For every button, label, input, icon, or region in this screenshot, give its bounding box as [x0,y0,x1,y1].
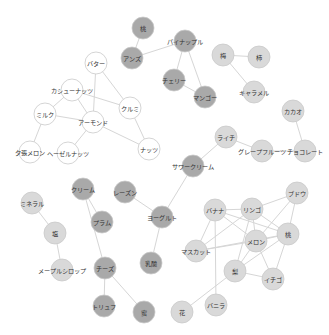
node-label: カカオ [284,108,302,115]
node-label: アーモンド [78,119,108,126]
node-cherry[interactable]: チェリー [162,69,186,91]
node-cheese[interactable]: チーズ [94,257,116,279]
node-label: メープルシロップ [38,267,87,274]
node-grapefruit[interactable]: グレープフルーツ [238,140,286,162]
node-label: ミルク [36,111,54,118]
node-label: 塩 [52,230,58,237]
node-label: ナッツ [140,146,158,153]
node-label: クリーム [71,186,95,193]
node-label: バター [87,60,105,67]
node-label: チョコレート [287,148,323,156]
edge-banana-vanilla [215,210,216,305]
node-raisin[interactable]: レーズン [113,181,137,203]
node-ichigo[interactable]: イチゴ [262,268,284,290]
node-label: 梨 [232,268,238,276]
node-label: バナナ [206,207,224,214]
node-almond[interactable]: アーモンド [78,111,108,133]
node-mineral[interactable]: ミネラル [20,192,44,214]
node-banana[interactable]: バナナ [204,199,226,221]
node-ume[interactable]: 梅 [212,44,234,66]
node-caramel[interactable]: キャラメル [239,81,269,103]
node-label: チェリー [162,77,186,84]
node-label: クルミ [121,105,139,112]
node-melon[interactable]: メロン [245,230,267,252]
node-label: パイナップル [167,38,203,45]
node-cacao[interactable]: カカオ [282,100,304,122]
node-truffle[interactable]: トリュフ [92,295,116,317]
network-graph: 桃アンズパイナップルチェリーマンゴー梅柿キャラメルカカオライチグレープフルーツチ… [0,0,329,335]
node-yogurt[interactable]: ヨーグルト [147,206,177,228]
node-sourcream[interactable]: サワークリーム [172,155,214,177]
node-label: 乳酸 [145,260,157,268]
node-butter[interactable]: バター [85,52,107,74]
node-label: グレープフルーツ [238,148,286,156]
node-maple[interactable]: メープルシロップ [38,259,87,281]
node-label: レーズン [113,189,137,196]
node-label: 柿 [256,54,262,62]
node-shio[interactable]: 塩 [44,222,66,244]
node-nyusan[interactable]: 乳酸 [140,252,162,274]
node-label: アンズ [123,55,141,62]
node-label: 桃 [140,25,146,33]
node-label: マンゴー [193,94,217,101]
node-label: ヘーゼルナッツ [47,150,89,157]
node-label: ミネラル [20,200,44,207]
node-label: 蜜 [141,309,147,317]
node-lychee[interactable]: ライチ [215,126,237,148]
node-hazelnut[interactable]: ヘーゼルナッツ [47,142,89,164]
node-nashi[interactable]: 梨 [224,260,246,282]
node-label: サワークリーム [172,163,214,170]
node-budou[interactable]: ブドウ [286,182,308,204]
node-label: 梅 [220,52,226,60]
node-cashew[interactable]: カシューナッツ [51,79,93,101]
node-chocolate[interactable]: チョコレート [287,140,323,162]
node-label: リンゴ [243,206,261,213]
node-vanilla[interactable]: バニラ [205,294,227,316]
node-layer: 桃アンズパイナップルチェリーマンゴー梅柿キャラメルカカオライチグレープフルーツチ… [15,17,323,323]
node-kaki[interactable]: 柿 [248,46,270,68]
node-label: マスカット [181,248,211,255]
node-anzu[interactable]: アンズ [121,47,143,69]
node-mango[interactable]: マンゴー [193,86,217,108]
node-label: トリュフ [92,303,116,310]
node-cream[interactable]: クリーム [71,178,95,200]
node-label: 桃 [285,231,291,239]
node-momo[interactable]: 桃 [277,223,299,245]
node-yubari[interactable]: 夕張メロン [15,141,45,163]
node-label: メロン [247,238,265,245]
node-label: ブドウ [288,190,306,197]
node-mitsu[interactable]: 蜜 [133,301,155,323]
node-label: キャラメル [239,89,269,96]
node-label: 夕張メロン [15,149,45,157]
node-label: チーズ [96,265,114,272]
node-label: ライチ [217,134,235,141]
node-label: バニラ [207,302,225,309]
node-nuts[interactable]: ナッツ [138,138,160,160]
node-label: 花 [179,309,185,317]
node-label: ヨーグルト [147,214,177,222]
node-momo_top[interactable]: 桃 [132,17,154,39]
node-label: カシューナッツ [51,87,93,94]
node-label: イチゴ [264,276,282,283]
node-label: プラム [93,219,111,226]
node-plum[interactable]: プラム [91,211,113,233]
node-ringo[interactable]: リンゴ [241,198,263,220]
node-pineapple[interactable]: パイナップル [167,30,203,52]
node-milk[interactable]: ミルク [34,103,56,125]
node-hana[interactable]: 花 [171,301,193,323]
node-kurumi[interactable]: クルミ [119,97,141,119]
